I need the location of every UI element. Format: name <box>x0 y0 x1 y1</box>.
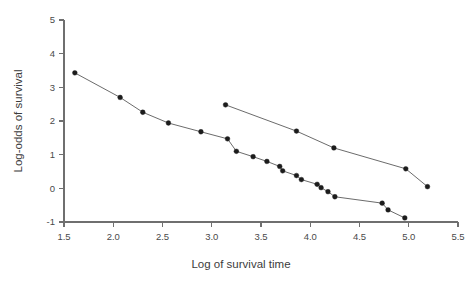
x-tick-label: 2.0 <box>107 231 120 242</box>
x-tick-label: 3.0 <box>205 231 218 242</box>
y-tick-label: 0 <box>50 183 55 194</box>
data-point <box>166 121 171 126</box>
x-axis-ticks: 1.52.02.53.03.54.04.55.05.5 <box>57 222 464 242</box>
data-point <box>72 70 77 75</box>
x-tick-label: 4.5 <box>353 231 366 242</box>
y-tick-label: 1 <box>50 149 55 160</box>
x-tick-label: 4.0 <box>304 231 317 242</box>
data-point <box>294 129 299 134</box>
data-point <box>402 216 407 221</box>
data-point <box>280 168 285 173</box>
y-axis-ticks: -1012345 <box>47 14 64 227</box>
data-point <box>315 182 320 187</box>
data-point <box>380 201 385 206</box>
y-tick-label: 4 <box>50 48 55 59</box>
data-point <box>140 110 145 115</box>
data-point <box>331 146 336 151</box>
data-point <box>299 177 304 182</box>
data-point <box>223 102 228 107</box>
chart-series-group <box>72 70 429 220</box>
x-tick-label: 5.0 <box>402 231 415 242</box>
data-point <box>425 184 430 189</box>
data-point <box>386 207 391 212</box>
x-axis-title: Log of survival time <box>191 258 290 270</box>
data-point <box>251 154 256 159</box>
data-point <box>332 194 337 199</box>
data-point <box>294 173 299 178</box>
data-point <box>277 164 282 169</box>
data-point <box>118 95 123 100</box>
data-point <box>199 129 204 134</box>
x-tick-label: 2.5 <box>156 231 169 242</box>
data-point <box>319 185 324 190</box>
chart-plot-area: -1012345 1.52.02.53.03.54.04.55.05.5 Log… <box>0 0 471 281</box>
y-tick-label: 2 <box>50 115 55 126</box>
series-line-series-1 <box>75 73 405 218</box>
y-tick-label: -1 <box>47 216 55 227</box>
y-axis-title: Log-odds of survival <box>12 70 24 173</box>
x-tick-label: 1.5 <box>57 231 70 242</box>
series-line-series-2 <box>226 105 428 187</box>
data-point <box>326 189 331 194</box>
y-tick-label: 5 <box>50 14 55 25</box>
x-tick-label: 3.5 <box>254 231 267 242</box>
data-point <box>225 136 230 141</box>
data-point <box>403 166 408 171</box>
data-point <box>265 159 270 164</box>
y-tick-label: 3 <box>50 82 55 93</box>
chart-figure: -1012345 1.52.02.53.03.54.04.55.05.5 Log… <box>0 0 471 281</box>
x-tick-label: 5.5 <box>451 231 464 242</box>
data-point <box>234 149 239 154</box>
